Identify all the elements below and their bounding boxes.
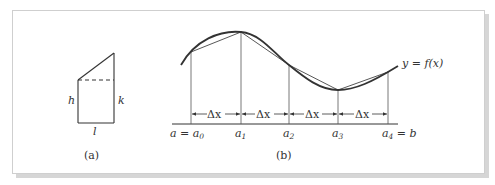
trapezoid-figure (78, 53, 114, 123)
label-k: k (118, 94, 125, 107)
caption-b: (b) (276, 149, 292, 162)
label-a1: a1 (235, 127, 246, 141)
label-l: l (93, 125, 97, 138)
delta-x-label-1: Δx (207, 108, 222, 121)
chord-polyline (191, 32, 388, 90)
caption-a: (a) (84, 149, 99, 162)
label-a3: a3 (332, 127, 344, 141)
figure-canvas: h k l (a) Δx Δx Δx (0, 0, 495, 185)
delta-x-label-4: Δx (355, 108, 370, 121)
label-a4: a4 = b (382, 127, 417, 141)
delta-x-label-2: Δx (256, 108, 271, 121)
label-h: h (68, 94, 75, 107)
function-curve (181, 32, 398, 90)
curve-label: y = f(x) (401, 57, 443, 70)
label-a2: a2 (283, 127, 295, 141)
delta-x-label-3: Δx (305, 108, 320, 121)
label-a0: a = a0 (170, 127, 204, 141)
trapezoid-slanted-top (78, 53, 114, 80)
